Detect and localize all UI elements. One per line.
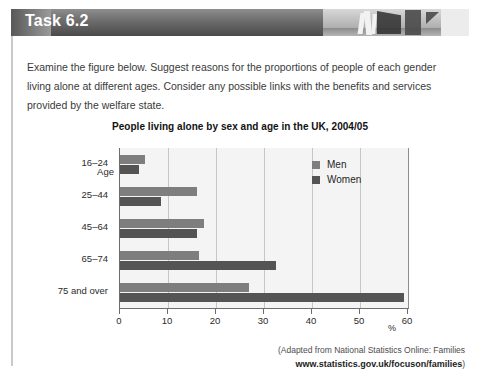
chart-title: People living alone by sex and age in th… [0,121,480,132]
photo-panel-a [377,11,401,34]
x-tick-label-20: 20 [210,315,221,326]
x-tick-label-10: 10 [162,315,173,326]
x-tick-label-50: 50 [354,315,365,326]
bar-women-0 [120,165,139,174]
chart-y-axis-labels: Age 16–2425–4445–6465–7475 and over [0,148,114,308]
bar-women-1 [120,197,161,206]
source-url: www.statistics.gov.uk/focuson/families [296,359,463,369]
legend-label-men: Men [327,159,346,170]
gridline-30 [264,148,265,308]
x-tick-label-40: 40 [306,315,317,326]
y-axis-label-2: 45–64 [82,221,114,232]
x-tick-label-0: 0 [116,315,121,326]
legend-item-women: Women [312,172,361,187]
task-instructions: Examine the figure below. Suggest reason… [27,58,459,115]
y-axis-label-3: 65–74 [82,253,114,264]
x-tick-20 [215,309,216,314]
task-header-banner: Task 6.2 [11,9,469,36]
x-axis-unit-label: % [388,323,396,333]
y-axis-label-1: 25–44 [82,189,114,200]
legend-item-men: Men [312,157,361,172]
photo-panel-b [405,10,421,35]
x-tick-50 [359,309,360,314]
chart-plot-area [119,148,409,309]
bar-women-2 [120,229,197,238]
bar-men-4 [120,283,249,292]
bar-men-1 [120,187,197,196]
legend-label-women: Women [327,174,361,185]
x-tick-30 [263,309,264,314]
chart-figure: People living alone by sex and age in th… [0,115,480,385]
x-tick-label-60: 60 [402,315,413,326]
x-tick-10 [167,309,168,314]
chart-source-note: (Adapted from National Statistics Online… [0,343,465,371]
source-line-1: (Adapted from National Statistics Online… [278,345,465,355]
source-paren: ) [462,359,465,369]
bar-men-0 [120,155,145,164]
x-tick-40 [311,309,312,314]
photo-panel-d [441,9,469,36]
x-tick-0 [119,309,120,314]
bar-women-3 [120,261,276,270]
photo-panel-c [426,12,439,24]
x-tick-60 [407,309,408,314]
x-tick-label-30: 30 [258,315,269,326]
task-title: Task 6.2 [25,12,89,30]
bar-women-4 [120,293,404,302]
banner-photo-image [323,9,469,36]
bar-men-2 [120,219,204,228]
chart-legend: Men Women [312,157,361,187]
bar-men-3 [120,251,199,260]
y-axis-label-0: 16–24 [82,157,114,168]
task-page: Task 6.2 Examine the figure below. Sugge… [0,0,480,385]
legend-swatch-men-icon [312,161,320,169]
y-axis-label-4: 75 and over [58,285,114,296]
legend-swatch-women-icon [312,176,320,184]
